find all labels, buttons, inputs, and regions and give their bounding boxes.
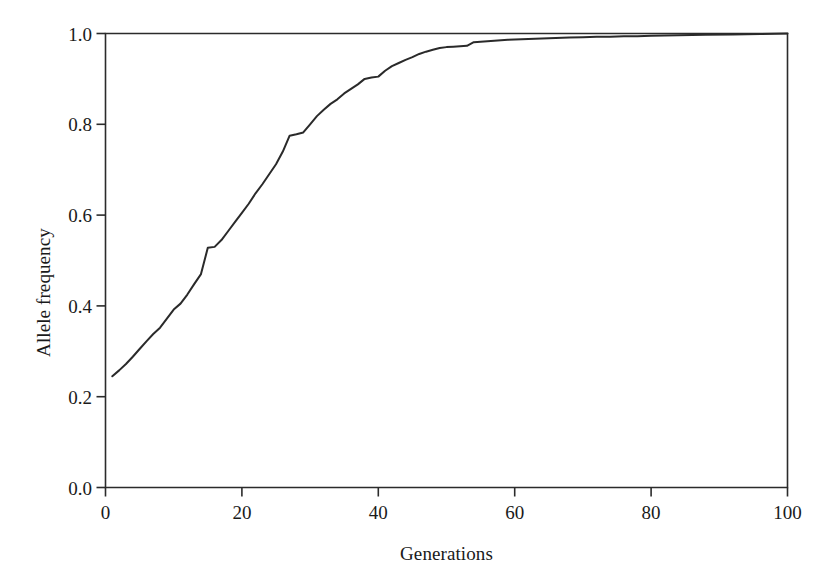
- x-tick-label: 80: [642, 503, 661, 522]
- x-tick-label: 100: [773, 503, 802, 522]
- x-axis-title: Generations: [105, 543, 788, 565]
- axes-box: [106, 34, 788, 488]
- x-tick-label: 0: [101, 503, 111, 522]
- x-axis-tick-marks: [106, 488, 788, 497]
- x-axis-tick-labels: 020406080100: [0, 503, 827, 531]
- y-axis-title: Allele frequency: [24, 0, 64, 585]
- x-tick-label: 40: [369, 503, 388, 522]
- plot-area: [0, 0, 827, 585]
- x-tick-label: 60: [505, 503, 524, 522]
- y-axis-tick-marks: [97, 34, 106, 488]
- chart-figure: 0.00.20.40.60.81.0 020406080100 Allele f…: [0, 0, 827, 585]
- allele-frequency-line: [112, 34, 787, 377]
- x-tick-label: 20: [232, 503, 251, 522]
